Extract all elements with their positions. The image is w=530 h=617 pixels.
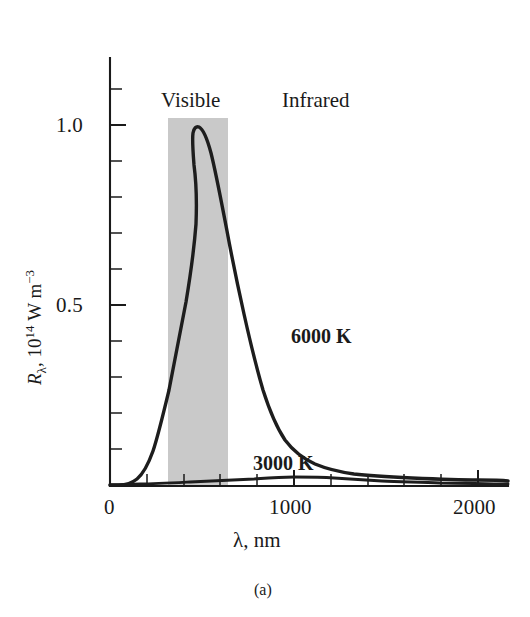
x-tick-label-2000: 2000 (453, 495, 496, 520)
figure-caption: (a) (254, 581, 272, 599)
x-axis-unit: , nm (243, 528, 280, 552)
infrared-region-label: Infrared (282, 88, 350, 113)
y-axis-units-exponent: −3 (22, 270, 37, 284)
y-axis-exponent: 14 (22, 326, 37, 339)
x-axis-title: λ, nm (233, 528, 281, 553)
y-axis-title: Rλ, 1014 W m−3 (24, 270, 46, 385)
y-axis-rest: , 10 (24, 338, 45, 367)
y-axis-symbol: R (24, 373, 45, 385)
series-label-6000k: 6000 K (291, 325, 352, 348)
x-tick-label-0: 0 (104, 495, 115, 520)
x-axis-symbol: λ (233, 528, 243, 552)
y-tick-label-0.5: 0.5 (56, 293, 83, 318)
x-tick-label-1000: 1000 (269, 495, 312, 520)
blackbody-radiation-figure: 1.0 0.5 0 1000 2000 Visible Infrared 600… (0, 0, 530, 617)
y-tick-label-1.0: 1.0 (56, 113, 83, 138)
y-axis-subscript: λ (34, 367, 49, 373)
visible-band-label: Visible (161, 88, 220, 113)
y-axis-units: W m (24, 284, 45, 326)
series-label-3000k: 3000 K (253, 452, 314, 475)
visible-band-rect (168, 118, 228, 485)
